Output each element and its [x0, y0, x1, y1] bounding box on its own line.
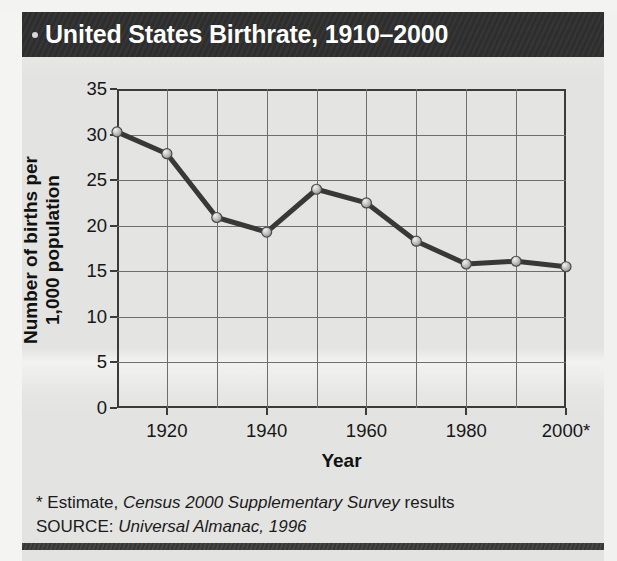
x-tick-mark [266, 408, 268, 415]
footnotes: * Estimate, Census 2000 Supplementary Su… [36, 491, 596, 539]
footnote-source-title: Universal Almanac, 1996 [118, 517, 306, 536]
x-tick-label: 1960 [346, 420, 387, 442]
y-tick-label: 20 [63, 215, 107, 237]
x-tick-label: 2000* [542, 420, 590, 442]
series-line-birthrate [117, 132, 566, 267]
x-tick-label: 1940 [246, 420, 287, 442]
x-axis-title: Year [117, 450, 566, 472]
footnote-estimate-suffix: results [400, 493, 455, 512]
footnote-estimate-prefix: * Estimate, [36, 493, 123, 512]
top-margin [0, 0, 617, 12]
data-point-marker [561, 262, 571, 272]
y-tick-mark [110, 270, 117, 272]
data-point-marker [262, 227, 272, 237]
footnote-estimate-source: Census 2000 Supplementary Survey [123, 493, 400, 512]
y-tick-label: 5 [63, 351, 107, 373]
footnote-source: SOURCE: Universal Almanac, 1996 [36, 515, 596, 539]
y-axis-title-line2: 1,000 population [42, 90, 64, 410]
plot-area [117, 89, 566, 408]
y-tick-mark [110, 361, 117, 363]
data-point-marker [511, 256, 521, 266]
x-tick-mark [565, 408, 567, 415]
y-tick-mark [110, 179, 117, 181]
x-tick-label: 1980 [446, 420, 487, 442]
data-point-marker [461, 259, 471, 269]
data-point-marker [162, 149, 172, 159]
series-birthrate [117, 89, 566, 408]
y-tick-label: 30 [63, 124, 107, 146]
y-axis-title: Number of births per 1,000 population [22, 90, 62, 410]
y-axis-title-line1: Number of births per [20, 90, 42, 410]
y-tick-label: 15 [63, 260, 107, 282]
data-point-marker [312, 184, 322, 194]
x-tick-label: 1920 [146, 420, 187, 442]
chart-title-bar: United States Birthrate, 1910–2000 [22, 12, 604, 57]
y-tick-label: 35 [63, 78, 107, 100]
footnote-estimate: * Estimate, Census 2000 Supplementary Su… [36, 491, 596, 515]
footnote-source-prefix: SOURCE: [36, 517, 118, 536]
y-tick-mark [110, 407, 117, 409]
y-tick-mark [110, 316, 117, 318]
y-tick-mark [110, 88, 117, 90]
y-tick-label: 25 [63, 169, 107, 191]
x-tick-mark [465, 408, 467, 415]
data-point-marker [361, 198, 371, 208]
page-title: United States Birthrate, 1910–2000 [45, 20, 448, 49]
x-tick-mark [166, 408, 168, 415]
data-point-marker [212, 213, 222, 223]
y-tick-mark [110, 225, 117, 227]
bullet-dot-icon [32, 32, 38, 38]
left-margin [0, 0, 22, 561]
x-tick-mark [365, 408, 367, 415]
data-point-marker [411, 236, 421, 246]
y-tick-label: 0 [63, 397, 107, 419]
right-margin [604, 0, 617, 561]
bottom-rule [22, 543, 604, 550]
data-point-marker [112, 127, 122, 137]
figure-panel: United States Birthrate, 1910–2000 05101… [0, 0, 617, 561]
y-tick-label: 10 [63, 306, 107, 328]
